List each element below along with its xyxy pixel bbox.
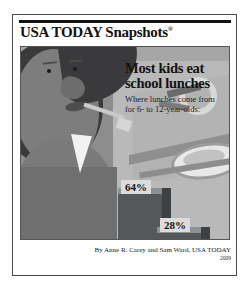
bar-2-side [201, 227, 210, 240]
masthead-rule [19, 20, 231, 23]
page-subtitle: Where lunches come from for 6- to 12-yea… [125, 95, 225, 114]
highlight-wedge [67, 134, 92, 174]
page-title: Most kids eat school lunches [125, 61, 225, 91]
registered-trademark-icon: ® [168, 25, 173, 33]
eye-left-icon [47, 69, 51, 73]
bar-2 [157, 233, 201, 240]
bar-2-value-label: 28% [160, 218, 190, 232]
child-body-shadow [21, 167, 117, 240]
masthead-brand: USA TODAY Snapshots® [20, 24, 232, 43]
year-label: 2009 [73, 255, 231, 261]
bar-1-value-label: 64% [121, 180, 151, 194]
eye-right-icon [73, 67, 77, 71]
illustration-panel: Most kids eat school lunches Where lunch… [20, 46, 230, 240]
snapshot-card: USA TODAY Snapshots® Most kids e [12, 14, 237, 276]
masthead-brand-text: USA TODAY Snapshots [20, 24, 168, 40]
bar-1 [118, 194, 162, 240]
byline: By Anne R. Carey and Sam Ward, USA TODAY [73, 246, 231, 254]
headline-block: Most kids eat school lunches Where lunch… [125, 61, 225, 114]
